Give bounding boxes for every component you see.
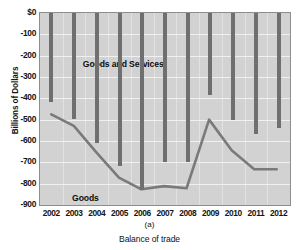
x-tick-label-2005: 2005 [111,208,128,218]
y-tick-label: -200 [4,51,36,59]
plot-area: Goods and Services Goods [39,12,291,206]
y-tick-label: -300 [4,72,36,80]
y-tick-label: -100 [4,29,36,37]
y-tick-label: -900 [4,200,36,208]
annotation-goods: Goods [72,193,99,203]
x-tick-label-2008: 2008 [179,208,196,218]
bar-goods-and-services [208,13,212,95]
bar-goods-and-services [186,13,190,162]
x-tick-label-2011: 2011 [248,208,265,218]
bar-goods-and-services [163,13,167,162]
y-tick-label: -600 [4,136,36,144]
x-tick-label-2004: 2004 [88,208,105,218]
x-tick-label-2009: 2009 [202,208,219,218]
y-tick-label: -400 [4,93,36,101]
y-tick-label: $0 [4,8,36,16]
x-tick-label-2010: 2010 [225,208,242,218]
x-tick-label-2003: 2003 [66,208,83,218]
panel-letter: (a) [0,220,299,229]
x-tick-label-2002: 2002 [43,208,60,218]
bar-goods-and-services [254,13,258,134]
figure-caption: Balance of trade [0,234,299,244]
y-axis-title: Billions of Dollars [11,53,20,149]
bar-goods-and-services [118,13,122,166]
x-tick-label-2012: 2012 [270,208,287,218]
bar-goods-and-services [231,13,235,120]
y-tick-label: -500 [4,115,36,123]
y-tick-label: -800 [4,179,36,187]
y-tick-label: -700 [4,157,36,165]
bar-goods-and-services [95,13,99,143]
x-tick-label-2006: 2006 [134,208,151,218]
balance-of-trade-figure: $0-100-200-300-400-500-600-700-800-900 B… [0,0,299,250]
bar-goods-and-services [140,13,144,190]
x-tick-label-2007: 2007 [156,208,173,218]
x-axis-ticks: 2002200320042005200620072008200920102011… [39,208,291,220]
bar-goods-and-services [49,13,53,102]
bar-goods-and-services [277,13,281,128]
bar-goods-and-services [72,13,76,119]
